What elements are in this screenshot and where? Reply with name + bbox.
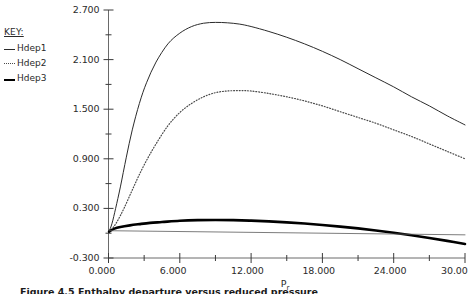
x-tick-label: 30.00 xyxy=(441,265,468,276)
figure-container: KEY: Hdep1 Hdep2 Hdep3 -0.3000.3000.9001… xyxy=(0,0,474,294)
legend-label-hdep3: Hdep3 xyxy=(17,74,46,83)
y-tick-label: 2.700 xyxy=(73,4,100,15)
legend-label-hdep1: Hdep1 xyxy=(17,44,46,53)
y-tick-label: 0.300 xyxy=(73,202,100,213)
legend-swatch-solid-thick-icon xyxy=(4,75,15,83)
legend-label-hdep2: Hdep2 xyxy=(17,59,46,68)
series-line-reference-line xyxy=(109,231,465,235)
series-line-hdep3 xyxy=(109,220,465,244)
x-tick-label: 6.000 xyxy=(160,265,187,276)
figure-caption: Figure 4.5 Enthalpy departure versus red… xyxy=(20,286,318,294)
y-tick-label: 1.500 xyxy=(73,103,100,114)
legend-item-hdep3: Hdep3 xyxy=(4,72,76,85)
y-tick-label: -0.300 xyxy=(69,252,99,263)
series-line-hdep1 xyxy=(109,22,465,231)
y-tick-label: 0.900 xyxy=(73,153,100,164)
x-tick-label: 0.000 xyxy=(89,265,116,276)
legend-item-hdep2: Hdep2 xyxy=(4,57,76,70)
x-tick-label: 12.000 xyxy=(231,265,264,276)
legend-swatch-solid-thin-icon xyxy=(4,45,15,53)
x-tick-label: 18.000 xyxy=(302,265,335,276)
legend-item-hdep1: Hdep1 xyxy=(4,42,76,55)
x-tick-label: 24.000 xyxy=(374,265,407,276)
chart-legend: KEY: Hdep1 Hdep2 Hdep3 xyxy=(4,28,76,87)
y-tick-label: 2.100 xyxy=(73,54,100,65)
series-layer xyxy=(109,22,465,244)
series-line-hdep2 xyxy=(109,91,465,232)
axes-layer xyxy=(104,10,466,263)
legend-title: KEY: xyxy=(4,28,76,37)
legend-swatch-dotted-icon xyxy=(4,60,15,68)
